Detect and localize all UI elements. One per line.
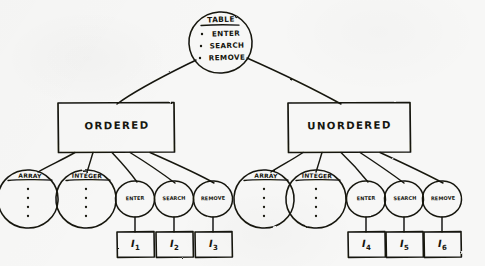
ordered-remove-node-outline [193,181,232,217]
ordered-array-node-outline [0,170,58,228]
ordered-search-node-outline [154,181,193,217]
edge-table-unordered [247,58,341,104]
instance-box-6-outline [424,232,461,258]
instance-box-5-outline [386,232,423,258]
table-node-outline [189,12,252,73]
instance-box-1-outline [117,232,154,258]
edges-unordered-children [271,153,443,184]
unordered-branch-outline [288,103,411,153]
root-operation-bullets [199,33,203,59]
diagram-ink-layer [0,0,485,266]
instance-box-2-outline [156,232,193,258]
ordered-enter-node-outline [115,181,154,217]
diagram-canvas: TABLE ENTER SEARCH REMOVE ORDERED UNORDE… [0,0,485,266]
instance-box-4-outline [348,232,385,258]
instance-box-3-outline [195,232,232,258]
edges-unordered-instances [366,217,442,232]
vertical-ellipsis-dots [27,188,317,217]
ordered-branch-outline [58,103,175,153]
edges-ordered-instances [135,217,213,232]
unordered-remove-node-outline [422,181,461,217]
unordered-enter-node-outline [346,181,385,217]
unordered-search-node-outline [384,181,423,217]
edge-table-ordered [117,60,196,104]
